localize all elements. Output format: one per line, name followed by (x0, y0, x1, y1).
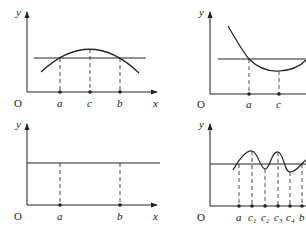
origin-label: O (14, 210, 22, 222)
origin-label: O (197, 98, 205, 110)
point-a (58, 203, 62, 207)
rolle-theorem-diagrams: y x O a c b y O a c y x O (0, 0, 306, 231)
label-b: b (117, 210, 123, 222)
point-a (58, 90, 62, 94)
label-c1: c1 (248, 211, 256, 225)
label-c3: c3 (274, 211, 283, 225)
label-b: b (299, 211, 305, 223)
point-c2 (263, 204, 267, 208)
label-a: a (57, 97, 63, 109)
point-c1 (250, 204, 254, 208)
label-c: c (87, 97, 92, 109)
x-axis-label: x (152, 97, 158, 109)
point-c (88, 90, 92, 94)
point-a (247, 92, 251, 96)
point-b (118, 90, 122, 94)
point-b (118, 203, 122, 207)
panel-top-left: y x O a c b (14, 6, 158, 109)
label-a: a (246, 98, 252, 110)
y-axis-label: y (198, 6, 204, 18)
x-axis-label: x (152, 210, 158, 222)
convex-curve (228, 26, 306, 71)
y-axis-label: y (15, 118, 21, 130)
y-axis-label: y (198, 118, 204, 130)
label-a: a (236, 211, 242, 223)
label-c2: c2 (261, 211, 270, 225)
panel-top-right: y O a c (197, 6, 306, 110)
origin-label: O (14, 97, 22, 109)
label-c: c (276, 98, 281, 110)
point-a (237, 204, 241, 208)
panel-bottom-left: y x O a b (14, 118, 160, 222)
label-a: a (57, 210, 63, 222)
point-b (300, 204, 304, 208)
label-b: b (117, 97, 123, 109)
point-c4 (288, 204, 292, 208)
y-axis-label: y (15, 6, 21, 18)
label-c4: c4 (286, 211, 295, 225)
point-c (277, 92, 281, 96)
point-c3 (276, 204, 280, 208)
panel-bottom-right: y O a c1 c2 c3 c4 b (197, 118, 306, 225)
origin-label: O (197, 211, 205, 223)
oscillating-curve (233, 151, 306, 172)
